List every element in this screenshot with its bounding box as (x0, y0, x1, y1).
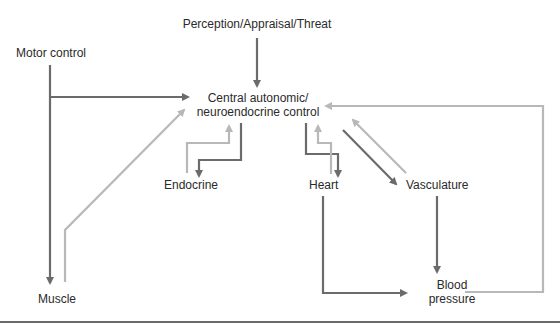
arrow-muscle-to-central (65, 110, 184, 282)
arrow-heart-to-central (318, 126, 331, 174)
node-vasculature: Vasculature (406, 178, 468, 192)
arrow-central-to-vasculature (343, 130, 396, 184)
central-line2: neuroendocrine control (192, 105, 324, 119)
central-line1: Central autonomic/ (192, 91, 324, 105)
bottom-rule (0, 321, 560, 323)
node-heart: Heart (309, 178, 338, 192)
bp-line2: pressure (412, 292, 492, 306)
arrow-vasculature-to-central (353, 120, 406, 173)
node-motor-control: Motor control (16, 46, 86, 60)
bp-line1: Blood (412, 278, 492, 292)
node-perception: Perception/Appraisal/Threat (171, 17, 343, 31)
node-central-control: Central autonomic/ neuroendocrine contro… (192, 91, 324, 119)
arrow-endocrine-to-central (187, 126, 229, 173)
arrow-central-to-heart (306, 123, 338, 176)
node-endocrine: Endocrine (164, 178, 218, 192)
physiology-control-diagram: Perception/Appraisal/Threat Motor contro… (0, 0, 560, 325)
node-muscle: Muscle (38, 292, 76, 306)
arrow-central-to-endocrine (199, 123, 241, 176)
arrow-heart-to-bp (323, 196, 406, 293)
node-blood-pressure: Blood pressure (412, 278, 492, 306)
arrow-bp-feedback-to-central (326, 106, 543, 292)
